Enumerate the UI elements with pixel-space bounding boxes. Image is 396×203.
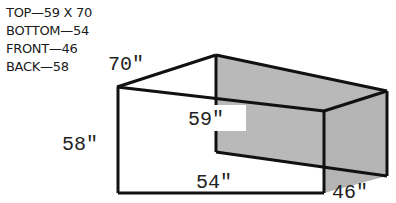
label-top-depth: 70"	[108, 53, 144, 76]
box-diagram: 70" 59" 58" 54" 46"	[0, 0, 396, 203]
label-top-width: 59"	[188, 108, 224, 131]
label-back-height: 58"	[62, 133, 98, 156]
label-front-height: 46"	[332, 181, 368, 203]
label-bottom-width: 54"	[196, 171, 232, 194]
